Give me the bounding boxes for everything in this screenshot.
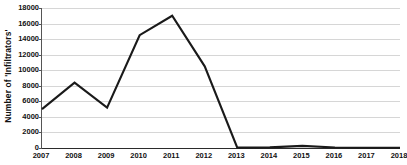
plot-area [41,8,400,149]
y-axis-tick-label: 14000 [18,35,39,43]
x-axis-tick-label: 2012 [195,152,212,160]
y-axis-tick-label: 2000 [22,129,39,137]
x-axis-tick-label: 2011 [163,152,179,160]
x-axis-tick-label: 2009 [98,152,115,160]
y-axis-tick-label: 4000 [22,113,39,121]
y-axis-tick-label: 16000 [18,20,39,28]
x-axis-tick-label: 2007 [33,152,50,160]
y-axis-tick-mark [39,117,42,118]
y-axis-tick-mark [39,55,42,56]
y-axis-tick-mark [39,70,42,71]
y-axis-tick-mark [39,24,42,25]
y-axis-tick-mark [39,86,42,87]
y-axis-tick-label: 12000 [18,51,39,59]
y-axis-tick-mark [39,132,42,133]
x-axis-tick-label: 2014 [260,152,277,160]
x-axis-tick-labels: 2007200820092010201120122013201420152016… [41,151,399,165]
y-axis-tick-label: 10000 [18,66,39,74]
x-axis-tick-label: 2017 [358,152,375,160]
x-axis-tick-label: 2018 [391,152,407,160]
x-axis-tick-label: 2008 [65,152,82,160]
y-axis-tick-label: 18000 [18,4,39,12]
x-axis-tick-label: 2016 [326,152,343,160]
y-axis-tick-label: 8000 [22,82,39,90]
x-axis-tick-label: 2010 [130,152,147,160]
y-axis-title-label: Number of 'Infiltrators' [3,29,13,122]
y-axis-tick-mark [39,101,42,102]
series-line [42,8,400,148]
x-axis-tick-label: 2013 [228,152,245,160]
y-axis-tick-labels: 0200040006000800010000120001400016000180… [14,0,39,152]
y-axis-tick-mark [39,8,42,9]
series-polyline [42,16,400,148]
y-axis-tick-label: 6000 [22,98,39,106]
y-axis-tick-mark [39,39,42,40]
y-axis-tick-mark [39,148,42,149]
x-axis-tick-label: 2015 [293,152,310,160]
